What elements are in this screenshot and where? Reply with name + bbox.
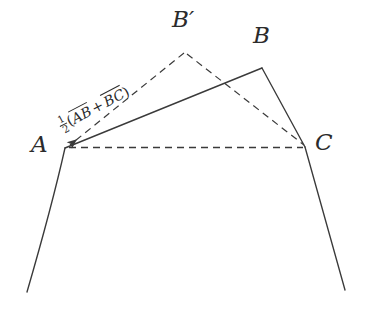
curve-right-from-C xyxy=(305,147,345,290)
prime-mark: ′ xyxy=(189,6,194,32)
vertex-label-b: B xyxy=(253,24,270,47)
vertex-label-c: C xyxy=(315,131,333,154)
curve-left-from-A xyxy=(27,148,65,292)
vertex-label-b-prime: B′ xyxy=(172,8,194,31)
segment-Bprime-C xyxy=(187,54,304,145)
vertex-label-a: A xyxy=(31,133,48,156)
geometry-figure: A B B′ C 12(AB+BC) xyxy=(0,0,370,322)
diagram-canvas xyxy=(0,0,370,322)
side-BC xyxy=(262,68,305,147)
vertex-label-b-prime-base: B xyxy=(172,6,189,32)
